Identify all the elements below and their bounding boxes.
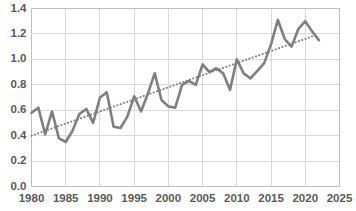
- y-axis-tick-label: 0.2: [11, 155, 27, 167]
- chart-plot-area: [0, 0, 356, 211]
- temperature-anomaly-chart: 0.00.20.40.60.81.01.21.41980198519901995…: [0, 0, 356, 211]
- y-axis-tick-label: 1.0: [11, 53, 27, 65]
- y-axis-tick-label: 0.4: [11, 130, 27, 142]
- y-axis-tick-label: 0.6: [11, 104, 27, 116]
- data-line-series: [32, 20, 319, 142]
- plot-border: [32, 9, 340, 187]
- x-axis-tick-label: 2025: [320, 193, 356, 205]
- y-axis-tick-label: 1.2: [11, 28, 27, 40]
- y-axis-tick-label: 0.0: [11, 181, 27, 193]
- trend-line-series: [32, 36, 313, 135]
- y-axis-tick-label: 1.4: [11, 3, 27, 15]
- y-axis-tick-label: 0.8: [11, 79, 27, 91]
